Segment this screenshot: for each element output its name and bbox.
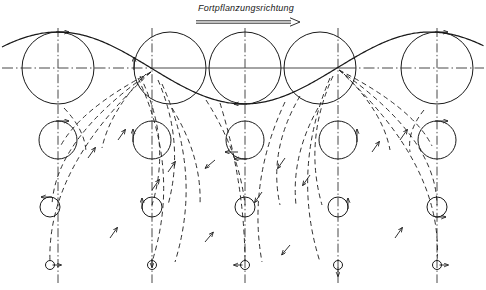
streamline-arrow-12 <box>205 232 213 242</box>
streamline-arrow-8 <box>255 192 262 203</box>
streamline-t-a <box>158 80 175 205</box>
streamline-c4-a <box>410 110 424 152</box>
streamline-mid-b <box>295 108 318 205</box>
streamline-mid-a <box>172 108 200 205</box>
streamline-arrow-13 <box>282 245 290 255</box>
figure-canvas: Fortpflanzungsrichtung <box>0 0 486 290</box>
streamline-n1-b <box>52 72 151 205</box>
streamline-arrow-10 <box>400 129 407 140</box>
streamline-arrow-9 <box>372 141 379 152</box>
streamline-n2-h <box>258 102 285 262</box>
streamline-n2-b <box>339 70 437 205</box>
streamline-arrow-4 <box>205 160 215 168</box>
streamline-n1-d <box>102 74 146 148</box>
streamline-n2-f <box>308 78 330 262</box>
streamline-n1-e <box>140 76 160 205</box>
streamline-arrow-0 <box>88 147 95 158</box>
streamline-c0-a <box>64 108 86 152</box>
streamline-arrow-14 <box>395 227 402 238</box>
streamline-arrow-3 <box>152 179 159 190</box>
streamline-arrow-11 <box>110 227 117 238</box>
streamline-arrow-6 <box>278 158 285 169</box>
streamline-arrow-7 <box>303 175 310 186</box>
streamline-n2-e <box>315 76 333 205</box>
streamline-n2-d <box>344 74 390 150</box>
streamline-n2-c <box>339 70 437 262</box>
streamline-arrow-1 <box>118 129 125 140</box>
streamline-n1-c <box>50 72 151 262</box>
wave-diagram-svg <box>0 0 486 290</box>
streamline-n1-f <box>138 78 164 262</box>
propagation-arrow-head <box>290 18 300 26</box>
